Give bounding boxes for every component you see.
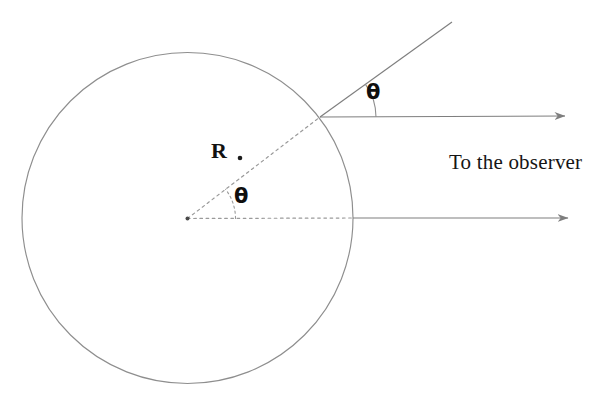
radius-label-dot	[238, 156, 243, 161]
radius-dotted-line	[188, 117, 321, 219]
center-dot	[186, 217, 190, 221]
surface-ray-line	[320, 22, 452, 117]
figure-canvas: R θ θ To the observer	[0, 0, 612, 402]
center-axis-dotted-line	[188, 218, 354, 219]
upper-observer-arrow	[320, 116, 565, 117]
observer-direction-label: To the observer	[449, 152, 582, 173]
radius-label: R	[211, 140, 227, 162]
center-angle-label: θ	[234, 186, 248, 207]
diagram-svg	[0, 0, 612, 402]
surface-angle-label: θ	[366, 82, 380, 103]
